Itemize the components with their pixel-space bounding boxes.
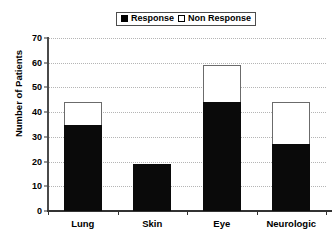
bar-slot [257,38,327,211]
bar-segment-non-response[interactable] [64,102,102,124]
legend-label-response: Response [131,14,174,23]
stacked-bar[interactable] [203,65,241,211]
bar-group [48,38,326,211]
bar-segment-response[interactable] [272,144,310,211]
stacked-bar[interactable] [133,164,171,211]
y-tick-label: 30 [32,132,42,142]
y-tick-label: 20 [32,157,42,167]
bar-segment-response[interactable] [203,102,241,211]
chart-legend: Response Non Response [116,12,256,26]
stacked-bar[interactable] [272,102,310,211]
y-tick-label: 70 [32,33,42,43]
x-axis-labels: LungSkinEyeNeurologic [48,218,326,229]
x-axis-label-lung: Lung [48,218,118,229]
legend-entry-response: Response [121,14,174,23]
x-tick-mark [187,211,188,215]
bar-slot [48,38,118,211]
stacked-bar[interactable] [64,102,102,211]
bar-slot [118,38,188,211]
y-axis-title: Number of Patients [13,24,24,164]
x-axis-ticks [48,211,326,217]
x-tick-mark [48,211,49,215]
bar-segment-response[interactable] [64,125,102,212]
bar-segment-non-response[interactable] [203,65,241,102]
legend-swatch-response-icon [121,15,128,22]
y-tick-label: 60 [32,58,42,68]
bar-segment-response[interactable] [133,164,171,211]
bar-segment-non-response[interactable] [272,102,310,144]
x-tick-mark [257,211,258,215]
x-tick-mark [326,211,327,215]
legend-label-non-response: Non Response [188,14,251,23]
x-axis-label-neurologic: Neurologic [257,218,327,229]
y-tick-label: 0 [37,206,42,216]
y-tick-label: 40 [32,107,42,117]
x-tick-mark [118,211,119,215]
x-axis-label-eye: Eye [187,218,257,229]
y-tick-label: 50 [32,82,42,92]
bar-slot [187,38,257,211]
x-axis-label-skin: Skin [118,218,188,229]
legend-swatch-non-response-icon [178,15,185,22]
y-tick-label: 10 [32,181,42,191]
legend-entry-non-response: Non Response [178,14,251,23]
plot-area: 010203040506070 [48,38,326,211]
bar-chart: Response Non Response Number of Patients… [0,0,333,248]
